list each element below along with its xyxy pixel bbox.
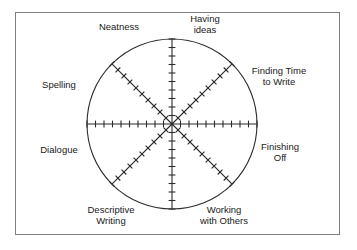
axis-label-finding-time-to-write: Finding Time to Write xyxy=(248,66,310,87)
radar-chart-figure: Neatness Having ideas Finding Time to Wr… xyxy=(0,0,357,250)
axis-label-having-ideas: Having ideas xyxy=(178,14,232,35)
radar-chart-canvas xyxy=(0,0,357,250)
axis-label-finishing-off: Finishing Off xyxy=(252,142,308,163)
axis-label-neatness: Neatness xyxy=(88,22,150,33)
axis-label-spelling: Spelling xyxy=(34,80,84,91)
axis-label-working-with-others: Working with Others xyxy=(188,205,260,226)
radar-graphics-group xyxy=(87,39,257,209)
axis-label-dialogue: Dialogue xyxy=(32,145,86,156)
axis-label-descriptive-writing: Descriptive Writing xyxy=(78,205,144,226)
radar-center-point xyxy=(171,123,174,126)
